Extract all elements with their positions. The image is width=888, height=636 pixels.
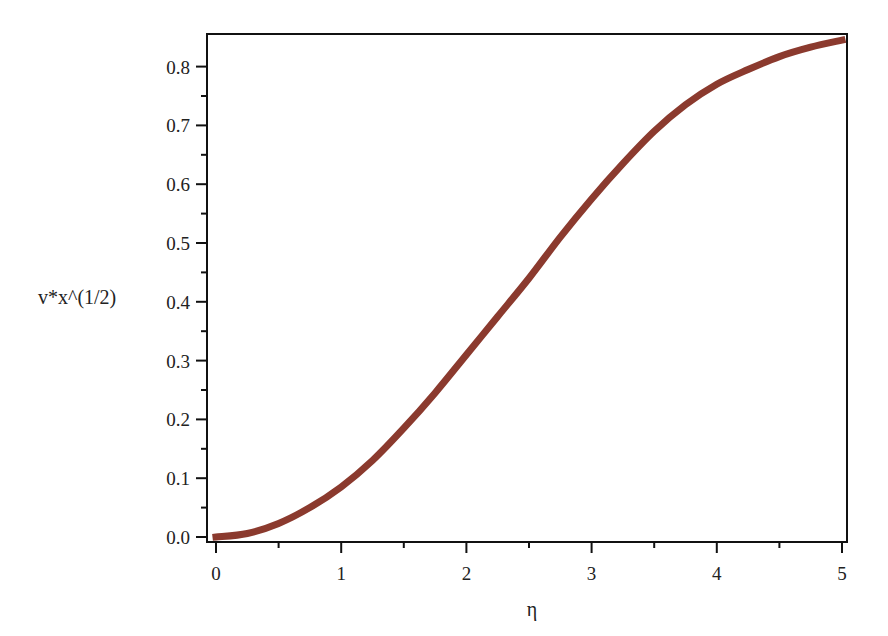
data-series-line [216,40,842,537]
x-axis: 012345 [211,542,847,584]
y-tick-label: 0.3 [166,351,190,372]
x-tick-label: 5 [837,563,847,584]
y-tick-label: 0.8 [166,57,190,78]
line-chart: 0.00.10.20.30.40.50.60.70.8 012345 η v*x… [0,0,888,636]
x-axis-title: η [527,598,537,621]
y-tick-label: 0.7 [166,115,190,136]
x-tick-label: 4 [712,563,722,584]
x-tick-label: 3 [587,563,597,584]
y-tick-label: 0.1 [166,468,190,489]
x-tick-label: 2 [462,563,472,584]
y-tick-label: 0.5 [166,233,190,254]
plot-frame [207,34,847,542]
y-tick-label: 0.2 [166,409,190,430]
y-tick-label: 0.4 [166,292,190,313]
y-axis-title: v*x^(1/2) [38,286,116,309]
x-tick-label: 1 [336,563,346,584]
x-tick-label: 0 [211,563,221,584]
y-tick-label: 0.6 [166,174,190,195]
y-axis: 0.00.10.20.30.40.50.60.70.8 [166,57,207,548]
y-tick-label: 0.0 [166,527,190,548]
